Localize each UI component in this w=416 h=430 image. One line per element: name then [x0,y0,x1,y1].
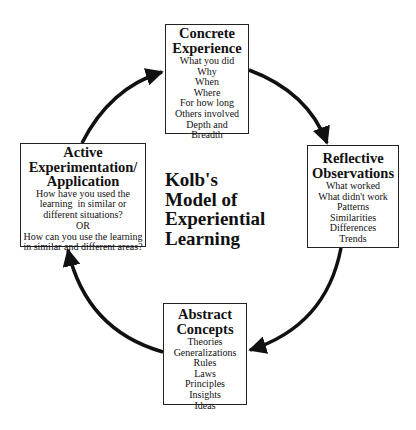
stage-title: Active Experimentation/ Application [21,145,145,189]
stage-reflective-observations: Reflective Observations What worked What… [307,145,399,248]
title-line: Application [21,174,145,189]
title-line: Observations [308,166,398,181]
title-line: Experience [166,41,248,56]
title-line: Reflective [308,151,398,166]
stage-item: in similar and different areas? [21,242,145,253]
stage-item: What you did [166,56,248,67]
stage-item: Breadth [166,130,248,141]
stage-item: Theories [164,337,246,348]
stage-active-experimentation: Active Experimentation/ Application How … [20,143,146,247]
stage-abstract-concepts: Abstract Concepts Theories Generalizatio… [163,303,247,405]
stage-item: Insights [164,390,246,401]
stage-title: Reflective Observations [308,151,398,181]
arrow-active-to-concrete [82,72,162,143]
stage-title: Abstract Concepts [164,307,246,337]
title-line: Active [21,145,145,160]
arrow-reflective-to-abstract [250,248,341,350]
stage-item: Others involved [166,109,248,120]
stage-concrete-experience: Concrete Experience What you did Why Whe… [165,24,249,134]
stage-item: What worked [308,181,398,192]
title-line: Abstract [164,307,246,322]
stage-title: Concrete Experience [166,26,248,56]
title-line: Concepts [164,322,246,337]
title-line: Experimentation/ [21,160,145,175]
title-line: Model of [165,190,305,210]
title-line: Learning [165,229,305,249]
stage-item: Trends [308,234,398,245]
arrow-concrete-to-reflective [249,70,327,143]
stage-item: Ideas [164,401,246,412]
title-line: Kolb's [165,170,305,190]
diagram-title: Kolb's Model of Experiential Learning [165,170,305,248]
arrow-abstract-to-active [68,250,163,352]
title-line: Concrete [166,26,248,41]
title-line: Experiential [165,209,305,229]
